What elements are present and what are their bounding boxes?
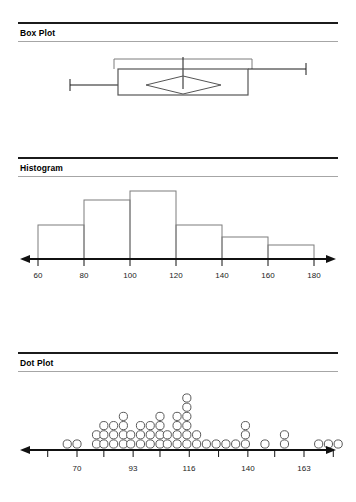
tick-label: 160 [261,271,275,280]
tick-label: 116 [183,464,196,473]
dot-plot-dot [212,440,220,448]
dot-plot-dot [173,440,181,448]
dot-plot-dot [119,422,127,430]
tick-label: 100 [123,271,137,280]
dot-plot-dot [280,431,288,439]
dot-plot-dot [183,403,191,411]
dot-plot-dot [261,440,269,448]
histogram-figure: 60 80 100 120 140 160 180 [18,177,338,292]
dot-plot-dot [156,422,164,430]
box-plot-figure [18,42,338,122]
dot-plot-dot [241,440,249,448]
histogram-bars [38,191,314,259]
dot-plot-dot [110,422,118,430]
axis-arrow-left [20,446,30,454]
dot-plot-dot [156,412,164,420]
tick-label: 140 [241,464,255,473]
tick-label: 93 [129,464,138,473]
dot-plot-dot [324,440,332,448]
dot-plot-dot [315,440,323,448]
dot-plot-dots [63,394,342,448]
dot-plot-dot [100,422,108,430]
dot-plot-dot [334,440,342,448]
dot-plot-dot [232,440,240,448]
dot-plot-dot [146,431,154,439]
dot-plot-figure: 70 93 116 140 163 [18,372,338,482]
dot-plot-dot [183,394,191,402]
dot-plot-dot [136,440,144,448]
dot-plot-dot [119,412,127,420]
dot-plot-dot [222,440,230,448]
dot-plot-dot [127,431,135,439]
dot-plot-dot [100,431,108,439]
histogram-tick-labels: 60 80 100 120 140 160 180 [34,271,322,280]
dot-plot-dot [173,422,181,430]
dot-plot-dot [136,431,144,439]
panel-dot-plot: Dot Plot 70 93 116 140 [18,352,338,482]
dot-plot-dot [241,431,249,439]
dot-plot-tick-labels: 70 93 116 140 163 [73,464,312,473]
tick-label: 70 [73,464,82,473]
panel-box-plot: Box Plot [18,22,338,122]
statistics-report-page: Box Plot [0,0,356,502]
axis-arrow-left [20,255,30,263]
dot-plot-ticks [48,450,334,457]
dot-plot-dot [163,431,171,439]
dot-plot-dot [136,422,144,430]
dot-plot-dot [241,422,249,430]
panel-header-histogram: Histogram [18,157,338,177]
dot-plot-dot [127,440,135,448]
dot-plot-dot [280,440,288,448]
dot-plot-dot [173,412,181,420]
histogram-bar [222,237,268,259]
dot-plot-dot [202,440,210,448]
tick-label: 140 [215,271,229,280]
dot-plot-dot [110,431,118,439]
histogram-ticks [38,259,314,266]
histogram-bar [38,225,84,259]
dot-plot-dot [100,440,108,448]
panel-body-box-plot [18,42,338,122]
upper-whisker [248,63,306,75]
dot-plot-dot [183,412,191,420]
dot-plot-dot [63,440,71,448]
dot-plot-dot [173,431,181,439]
dot-plot-dot [146,422,154,430]
tick-label: 163 [297,464,311,473]
dot-plot-dot [73,440,81,448]
panel-histogram: Histogram [18,157,338,292]
panel-header-box-plot: Box Plot [18,22,338,42]
tick-label: 180 [307,271,321,280]
dot-plot-dot [110,440,118,448]
lower-whisker [70,79,118,91]
panel-header-dot-plot: Dot Plot [18,352,338,372]
dot-plot-dot [193,431,201,439]
histogram-bar [130,191,176,259]
tick-label: 60 [34,271,43,280]
dot-plot-dot [163,440,171,448]
dot-plot-dot [183,422,191,430]
histogram-bar [268,245,314,259]
tick-label: 80 [80,271,89,280]
panel-body-dot-plot: 70 93 116 140 163 [18,372,338,482]
panel-title-box-plot: Box Plot [18,24,338,41]
histogram-bar [176,225,222,259]
dot-plot-dot [193,440,201,448]
panel-body-histogram: 60 80 100 120 140 160 180 [18,177,338,292]
dot-plot-dot [183,431,191,439]
histogram-bar [84,200,130,259]
histogram-x-axis [20,255,336,263]
dot-plot-dot [183,440,191,448]
panel-title-histogram: Histogram [18,159,338,176]
panel-title-dot-plot: Dot Plot [18,354,338,371]
tick-label: 120 [169,271,183,280]
axis-arrow-right [326,255,336,263]
dot-plot-dot [146,440,154,448]
